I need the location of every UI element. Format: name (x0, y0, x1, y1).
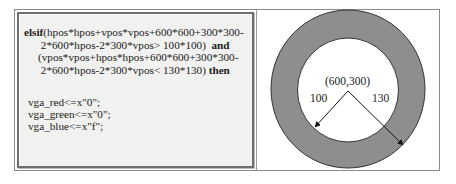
center-label: (600,300) (325, 75, 370, 87)
inner-radius-label: 100 (310, 92, 327, 104)
outer-radius-label: 130 (372, 92, 389, 104)
